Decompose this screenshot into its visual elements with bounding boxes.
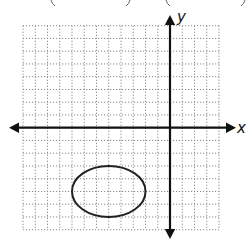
coordinate-plane: x y — [0, 0, 249, 244]
cropped-parentheses — [51, 0, 245, 6]
x-axis-label: x — [236, 119, 246, 137]
y-axis-bottom-arrow-icon — [165, 229, 175, 239]
x-axis-left-arrow-icon — [9, 123, 19, 133]
y-axis-label: y — [176, 8, 187, 26]
x-axis-right-arrow-icon — [226, 123, 236, 133]
y-axis-top-arrow-icon — [165, 15, 175, 25]
